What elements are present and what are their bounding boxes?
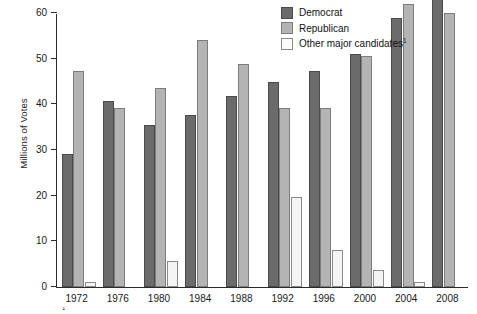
x-axis-label-2008: 2008: [427, 293, 468, 304]
bar-oth-1992: [291, 197, 302, 287]
legend-label: Republican: [299, 23, 349, 34]
bar-group: [144, 14, 178, 287]
x-axis-label-1996: 1996: [303, 293, 344, 304]
bar-rep-1972: [73, 71, 84, 287]
bar-rep-1988: [238, 64, 249, 287]
bar-group: [226, 14, 260, 287]
y-axis-tick-label: 30: [36, 144, 47, 155]
bar-chart: Millions of Votes 0102030405060 19721976…: [0, 0, 477, 314]
bar-rep-1984: [197, 40, 208, 287]
bar-oth-1980: [167, 261, 178, 287]
plot-area: 0102030405060: [56, 14, 468, 288]
bar-dem-1972: [62, 154, 73, 287]
y-axis-tick-label: 40: [36, 98, 47, 109]
bar-group: [309, 14, 343, 287]
legend-swatch-icon-dem: [281, 7, 293, 19]
x-axis-label-2000: 2000: [344, 293, 385, 304]
x-axis-label-1980: 1980: [138, 293, 179, 304]
bar-dem-1976: [103, 101, 114, 287]
bar-dem-2004: [391, 18, 402, 287]
y-axis-tick-label: 50: [36, 53, 47, 64]
x-axis-label-1984: 1984: [180, 293, 221, 304]
legend-swatch-icon-oth: [281, 38, 293, 50]
bar-rep-2000: [361, 56, 372, 287]
bar-rep-1992: [279, 108, 290, 287]
bar-dem-1984: [185, 115, 196, 287]
bars-layer: [57, 14, 468, 287]
bar-group: [432, 14, 466, 287]
legend-superscript: 1: [403, 37, 407, 44]
bar-rep-2008: [444, 13, 455, 287]
legend-swatch-icon-rep: [281, 22, 293, 34]
bar-oth-1996: [332, 250, 343, 287]
x-axis-label-1988: 1988: [221, 293, 262, 304]
x-axis-label-1972: 1972: [56, 293, 97, 304]
y-axis-tick-label: 10: [36, 235, 47, 246]
y-axis-title: Millions of Votes: [18, 64, 29, 204]
bar-group: [62, 14, 96, 287]
bar-group: [268, 14, 302, 287]
bar-oth-1972: [85, 282, 96, 287]
bar-dem-1980: [144, 125, 155, 287]
legend-item-rep[interactable]: Republican: [281, 22, 407, 35]
legend-label: Democrat: [299, 7, 342, 18]
y-axis-tick-label: 60: [36, 7, 47, 18]
bar-rep-1976: [114, 108, 125, 287]
x-axis-label-2004: 2004: [386, 293, 427, 304]
bar-group: [103, 14, 137, 287]
bar-dem-2000: [350, 54, 361, 287]
legend-item-dem[interactable]: Democrat: [281, 6, 407, 19]
legend-item-oth[interactable]: Other major candidates1: [281, 37, 407, 50]
y-axis-tick-label: 20: [36, 190, 47, 201]
footnote-marker: 1: [62, 307, 65, 311]
y-axis-tick: 60: [51, 12, 57, 13]
y-axis-tick-label: 0: [41, 281, 47, 292]
bar-oth-2004: [414, 282, 425, 287]
legend-label: Other major candidates1: [299, 38, 407, 49]
bar-group: [350, 14, 384, 287]
bar-dem-2008: [432, 0, 443, 287]
bar-rep-1980: [155, 88, 166, 287]
bar-group: [391, 14, 425, 287]
bar-dem-1988: [226, 96, 237, 287]
bar-dem-1992: [268, 82, 279, 287]
x-axis-label-1992: 1992: [262, 293, 303, 304]
bar-group: [185, 14, 219, 287]
bar-oth-2000: [373, 270, 384, 287]
x-axis-label-1976: 1976: [97, 293, 138, 304]
chart-footnote: 1: [62, 307, 65, 314]
bar-rep-1996: [320, 108, 331, 287]
bar-dem-1996: [309, 71, 320, 287]
chart-legend: DemocratRepublicanOther major candidates…: [281, 6, 407, 50]
